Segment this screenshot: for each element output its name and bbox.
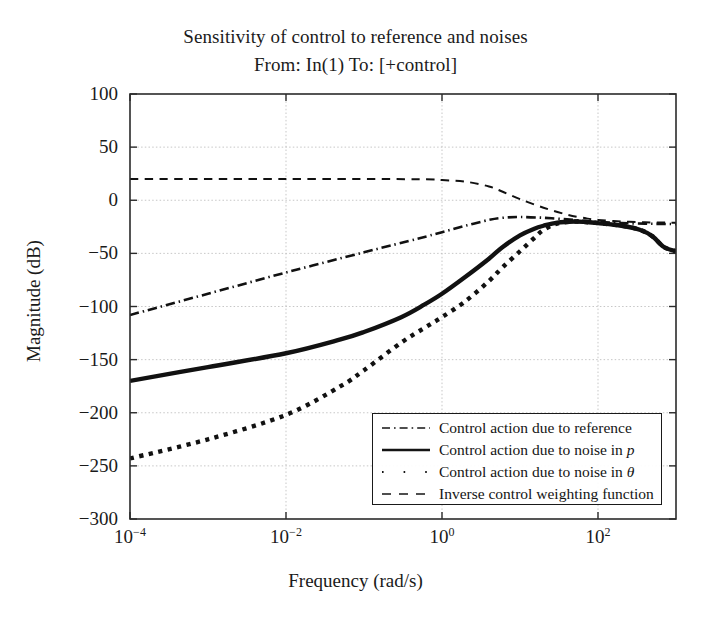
legend-item[interactable]: Control action due to reference: [373, 417, 661, 439]
legend-label: Control action due to noise in p: [439, 441, 634, 459]
series-line-1: [130, 221, 676, 380]
series-line-3: [130, 179, 676, 223]
plot-area: [0, 0, 711, 624]
legend-label: Control action due to reference: [439, 419, 632, 437]
legend-line-sample-solid: [380, 443, 432, 457]
legend-line-sample-dashed: [380, 487, 432, 501]
legend-label: Control action due to noise in θ: [439, 463, 634, 481]
legend-item[interactable]: Inverse control weighting function: [373, 483, 661, 505]
legend-item[interactable]: Control action due to noise in θ: [373, 461, 661, 483]
legend-item[interactable]: Control action due to noise in p: [373, 439, 661, 461]
bode-magnitude-figure: Sensitivity of control to reference and …: [0, 0, 711, 624]
legend-label: Inverse control weighting function: [439, 485, 654, 503]
legend-line-sample-dotted: [380, 465, 432, 479]
legend-line-sample-dashdot: [380, 421, 432, 435]
legend[interactable]: Control action due to referenceControl a…: [372, 413, 662, 505]
series-line-0: [130, 217, 676, 315]
